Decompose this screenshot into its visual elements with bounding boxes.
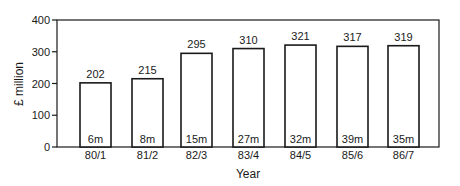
x-tick-label: 83/4: [238, 149, 259, 161]
bar-value-label: 317: [343, 31, 361, 43]
bar-chart: 0100200300400 2026m2158m29515m31027m3213…: [0, 0, 460, 186]
x-tick-label: 85/6: [342, 149, 363, 161]
bar-inner-label: 32m: [290, 133, 311, 145]
bars: 2026m2158m29515m31027m32132m31739m31935m: [80, 30, 419, 147]
x-axis-label: Year: [236, 167, 260, 181]
bar: [337, 46, 368, 147]
bar-inner-label: 8m: [140, 133, 155, 145]
y-tick-label: 0: [44, 141, 50, 153]
x-tick-label: 86/7: [393, 149, 414, 161]
y-tick-label: 200: [32, 78, 50, 90]
bar-inner-label: 15m: [186, 133, 207, 145]
x-tick-label: 81/2: [137, 149, 158, 161]
x-tick-label: 82/3: [186, 149, 207, 161]
bar-group: 29515m: [181, 38, 212, 147]
y-axis: 0100200300400: [32, 14, 57, 153]
bar-inner-label: 39m: [342, 133, 363, 145]
bar: [285, 45, 316, 147]
bar-inner-label: 35m: [393, 133, 414, 145]
bar-value-label: 321: [291, 30, 309, 42]
bar-value-label: 202: [86, 68, 104, 80]
bar-group: 2158m: [132, 64, 163, 147]
bar-group: 31739m: [337, 31, 368, 147]
bar-group: 31935m: [388, 31, 419, 147]
x-tick-label: 84/5: [290, 149, 311, 161]
x-tick-label: 80/1: [85, 149, 106, 161]
y-axis-label: £ million: [12, 62, 26, 106]
bar-value-label: 295: [187, 38, 205, 50]
bar-inner-label: 6m: [88, 133, 103, 145]
y-tick-label: 400: [32, 14, 50, 26]
bar-group: 2026m: [80, 68, 111, 147]
y-tick-label: 100: [32, 109, 50, 121]
bar-group: 31027m: [233, 34, 264, 147]
y-tick-label: 300: [32, 46, 50, 58]
bar-inner-label: 27m: [238, 133, 259, 145]
bar-group: 32132m: [285, 30, 316, 147]
bar: [388, 46, 419, 147]
x-axis: 80/181/282/383/484/585/686/7: [85, 149, 414, 161]
bar-value-label: 319: [394, 31, 412, 43]
bar-value-label: 215: [138, 64, 156, 76]
bar-value-label: 310: [239, 34, 257, 46]
